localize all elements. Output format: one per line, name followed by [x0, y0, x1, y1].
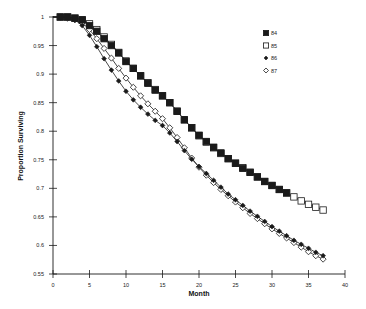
filled-square-marker — [189, 125, 195, 131]
filled-square-marker — [269, 182, 275, 188]
series-layer — [53, 14, 326, 262]
y-tick-label: 0.6 — [36, 242, 44, 248]
series-line-85 — [53, 17, 323, 210]
filled-square-marker — [108, 42, 114, 48]
filled-square-marker — [174, 108, 180, 114]
open-diamond-marker — [108, 55, 114, 61]
open-diamond-marker — [264, 68, 269, 73]
series-line-87 — [53, 17, 323, 259]
x-tick-label: 15 — [159, 282, 165, 288]
filled-square-marker — [64, 14, 70, 20]
x-tick-label: 5 — [88, 282, 91, 288]
filled-diamond-marker — [109, 68, 114, 73]
filled-square-marker — [203, 138, 209, 144]
y-tick-label: 0.75 — [33, 157, 44, 163]
filled-square-marker — [79, 17, 85, 23]
filled-square-marker — [123, 58, 129, 64]
filled-square-marker — [247, 169, 253, 175]
filled-square-marker — [262, 178, 268, 184]
filled-square-marker — [196, 132, 202, 138]
filled-square-marker — [167, 99, 173, 105]
x-tick-label: 20 — [196, 282, 202, 288]
filled-square-marker — [72, 15, 78, 21]
legend-item-86: 86 — [264, 55, 277, 61]
filled-square-marker — [263, 30, 268, 35]
filled-square-marker — [145, 80, 151, 86]
x-tick-label: 35 — [305, 282, 311, 288]
filled-square-marker — [240, 165, 246, 171]
filled-square-marker — [225, 155, 231, 161]
legend-label: 85 — [271, 43, 277, 49]
x-tick-label: 40 — [342, 282, 348, 288]
legend-label: 87 — [271, 68, 277, 74]
y-tick-label: 1 — [41, 14, 44, 20]
open-square-marker — [298, 198, 304, 204]
y-tick-label: 0.8 — [36, 128, 44, 134]
series-85 — [53, 14, 326, 213]
filled-square-marker — [159, 93, 165, 99]
filled-square-marker — [130, 65, 136, 71]
filled-square-marker — [152, 87, 158, 93]
legend-label: 84 — [271, 30, 277, 36]
legend-label: 86 — [271, 55, 277, 61]
series-line-86 — [53, 17, 323, 256]
open-square-marker — [313, 204, 319, 210]
open-diamond-marker — [116, 65, 122, 71]
open-diamond-marker — [101, 45, 107, 51]
filled-diamond-marker — [94, 44, 99, 49]
open-square-marker — [320, 207, 326, 213]
series-87 — [53, 14, 326, 262]
x-axis-title: Month — [189, 290, 210, 297]
y-tick-label: 0.55 — [33, 271, 44, 277]
filled-square-marker — [116, 50, 122, 56]
filled-square-marker — [232, 160, 238, 166]
filled-square-marker — [283, 190, 289, 196]
legend: 84858687 — [263, 30, 277, 74]
filled-square-marker — [276, 186, 282, 192]
y-tick-label: 0.65 — [33, 214, 44, 220]
filled-square-marker — [94, 28, 100, 34]
open-square-marker — [263, 43, 268, 48]
open-square-marker — [291, 194, 297, 200]
x-tick-label: 30 — [269, 282, 275, 288]
legend-item-85: 85 — [263, 43, 277, 49]
y-tick-label: 0.7 — [36, 185, 44, 191]
filled-diamond-marker — [264, 56, 268, 60]
y-tick-label: 0.95 — [33, 43, 44, 49]
y-tick-label: 0.9 — [36, 71, 44, 77]
y-axis-title: Proportion Surviving — [17, 111, 25, 181]
x-tick-label: 25 — [232, 282, 238, 288]
series-86 — [53, 15, 326, 259]
open-square-marker — [305, 201, 311, 207]
series-84 — [53, 14, 290, 196]
filled-square-marker — [101, 36, 107, 42]
filled-square-marker — [254, 174, 260, 180]
survival-chart: 0.550.60.650.70.750.80.850.90.9510510152… — [0, 0, 366, 309]
filled-square-marker — [57, 14, 63, 20]
x-tick-label: 0 — [51, 282, 54, 288]
filled-diamond-marker — [102, 56, 107, 61]
filled-square-marker — [181, 117, 187, 123]
filled-square-marker — [137, 73, 143, 79]
filled-square-marker — [218, 150, 224, 156]
x-tick-label: 10 — [123, 282, 129, 288]
y-tick-label: 0.85 — [33, 100, 44, 106]
filled-square-marker — [210, 144, 216, 150]
filled-square-marker — [86, 22, 92, 28]
legend-item-87: 87 — [264, 68, 278, 74]
legend-item-84: 84 — [263, 30, 277, 36]
